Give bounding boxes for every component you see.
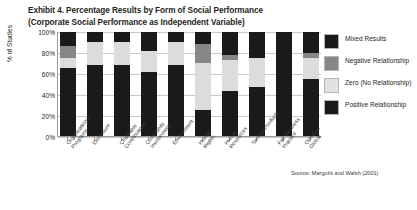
- legend-item-negative-relationship[interactable]: Negative Relationship: [324, 56, 416, 71]
- bar-segment-mixed-results: [141, 32, 157, 51]
- chart: % of Studies 100%80%60%40%20%0% Organiza…: [22, 32, 332, 142]
- bar-segment-zero-no-relationship-: [249, 58, 265, 87]
- y-tick-label: 60%: [22, 71, 55, 78]
- bar-fair-business-practice: [276, 32, 292, 136]
- y-tick-label: 40%: [22, 92, 55, 99]
- bar-segment-mixed-results: [114, 32, 130, 42]
- bar-segment-mixed-results: [249, 32, 265, 58]
- bar-segment-zero-no-relationship-: [141, 51, 157, 72]
- bar-segment-negative-relationship: [60, 46, 76, 58]
- legend-swatch-icon: [324, 78, 339, 93]
- legend-swatch-icon: [324, 34, 339, 49]
- bar-segment-zero-no-relationship-: [303, 58, 319, 79]
- y-tick-label: 100%: [22, 29, 55, 36]
- legend-item-positive-relationship[interactable]: Positive Relationship: [324, 100, 416, 115]
- legend-label: Negative Relationship: [345, 56, 409, 65]
- bar-segment-mixed-results: [168, 32, 184, 42]
- chart-legend: Mixed ResultsNegative RelationshipZero (…: [324, 34, 416, 122]
- y-axis-tick-labels: 100%80%60%40%20%0%: [22, 32, 55, 137]
- y-axis-title: % of Studies: [6, 25, 13, 62]
- bar-segment-mixed-results: [195, 32, 211, 44]
- bar-organizational-programs: [60, 32, 76, 136]
- legend-label: Zero (No Relationship): [345, 78, 411, 87]
- bar-segment-mixed-results: [303, 32, 319, 53]
- legend-swatch-icon: [324, 56, 339, 71]
- legend-item-zero-no-relationship-[interactable]: Zero (No Relationship): [324, 78, 416, 93]
- bar-segment-mixed-results: [60, 32, 76, 46]
- bar-segment-mixed-results: [222, 32, 238, 55]
- y-tick-label: 20%: [22, 113, 55, 120]
- legend-item-mixed-results[interactable]: Mixed Results: [324, 34, 416, 49]
- title-line-2: (Corporate Social Performance as Indepen…: [28, 17, 358, 29]
- bar-segment-zero-no-relationship-: [87, 42, 103, 65]
- bar-segment-zero-no-relationship-: [114, 42, 130, 65]
- bar-segment-positive-relationship: [60, 68, 76, 136]
- title-line-1: Exhibit 4. Percentage Results by Form of…: [28, 5, 358, 17]
- bar-charitable-contributions: [114, 32, 130, 136]
- bar-human-rights: [195, 32, 211, 136]
- bar-segment-positive-relationship: [276, 32, 292, 136]
- y-tick-label: 80%: [22, 50, 55, 57]
- x-axis-category-labels: OrganizationalProgramsDisclosureCharitab…: [57, 142, 321, 198]
- legend-swatch-icon: [324, 100, 339, 115]
- bar-segment-negative-relationship: [195, 44, 211, 63]
- source-note: Source: Margolis and Walsh (2001): [291, 170, 378, 176]
- bar-segment-zero-no-relationship-: [168, 42, 184, 65]
- bar-segment-zero-no-relationship-: [222, 60, 238, 91]
- legend-label: Mixed Results: [345, 34, 386, 43]
- bar-segment-zero-no-relationship-: [60, 58, 76, 68]
- y-tick-label: 0%: [22, 134, 55, 141]
- page-title: Exhibit 4. Percentage Results by Form of…: [28, 5, 358, 28]
- legend-label: Positive Relationship: [345, 100, 406, 109]
- bar-segment-mixed-results: [87, 32, 103, 42]
